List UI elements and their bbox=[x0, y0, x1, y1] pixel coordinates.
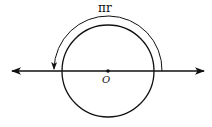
geometry-diagram bbox=[0, 0, 212, 127]
center-label: O bbox=[102, 74, 110, 85]
center-point bbox=[106, 69, 110, 73]
arc-arrow bbox=[54, 16, 162, 71]
arc-length-label: πr bbox=[98, 1, 112, 15]
